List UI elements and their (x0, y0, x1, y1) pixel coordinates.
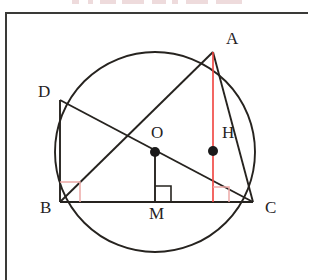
label-point-m: M (149, 205, 164, 222)
label-point-d: D (38, 83, 50, 100)
label-point-a: A (226, 30, 238, 47)
label-point-o: O (151, 124, 163, 141)
label-point-h: H (222, 124, 234, 141)
diagram-page: A D O H B C M (0, 0, 309, 280)
label-point-c: C (265, 199, 276, 216)
right-angle-mark-at-altitude-foot (213, 187, 229, 202)
label-point-b: B (40, 199, 51, 216)
right-angle-mark-at-m (155, 186, 171, 202)
point-o-dot (150, 147, 160, 157)
point-h-dot (208, 146, 218, 156)
segment-ba (60, 52, 213, 202)
